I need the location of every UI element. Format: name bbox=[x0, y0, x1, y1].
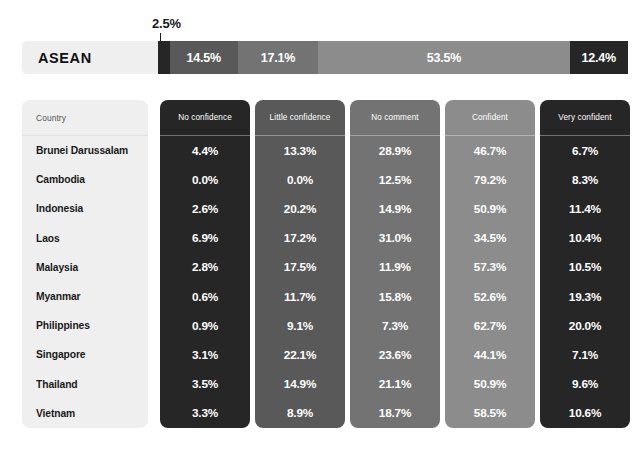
country-percentage-table: CountryBrunei DarussalamCambodiaIndonesi… bbox=[0, 100, 644, 430]
column-header-no-confidence[interactable]: No confidence bbox=[160, 100, 250, 136]
column-header-little-confidence[interactable]: Little confidence bbox=[255, 100, 345, 136]
table-cell-confident: 52.6% bbox=[445, 282, 535, 311]
table-row-country-name: Laos bbox=[22, 224, 148, 253]
table-cell-very-confident: 10.5% bbox=[540, 253, 630, 282]
column-header-no-comment[interactable]: No comment bbox=[350, 100, 440, 136]
table-row-country-name: Philippines bbox=[22, 311, 148, 340]
table-cell-no-comment: 7.3% bbox=[350, 311, 440, 340]
table-cell-little-confidence: 14.9% bbox=[255, 370, 345, 399]
table-column-no-comment: No comment28.9%12.5%14.9%31.0%11.9%15.8%… bbox=[350, 100, 440, 428]
table-column-little-confidence: Little confidence13.3%0.0%20.2%17.2%17.5… bbox=[255, 100, 345, 428]
table-cell-no-confidence: 0.6% bbox=[160, 282, 250, 311]
table-cell-no-comment: 23.6% bbox=[350, 340, 440, 369]
table-row-country-name: Brunei Darussalam bbox=[22, 136, 148, 165]
table-cell-very-confident: 19.3% bbox=[540, 282, 630, 311]
table-row-country-name: Cambodia bbox=[22, 165, 148, 194]
column-header-label: No confidence bbox=[160, 113, 250, 122]
column-header-label: Little confidence bbox=[255, 113, 345, 122]
table-cell-little-confidence: 17.2% bbox=[255, 224, 345, 253]
table-cell-confident: 58.5% bbox=[445, 399, 535, 428]
table-cell-no-comment: 15.8% bbox=[350, 282, 440, 311]
column-header-label: Confident bbox=[445, 113, 535, 122]
table-cell-little-confidence: 20.2% bbox=[255, 194, 345, 223]
table-cell-no-confidence: 2.6% bbox=[160, 194, 250, 223]
table-cell-no-comment: 11.9% bbox=[350, 253, 440, 282]
table-cell-confident: 50.9% bbox=[445, 370, 535, 399]
table-column-country: CountryBrunei DarussalamCambodiaIndonesi… bbox=[22, 100, 148, 428]
table-cell-no-comment: 14.9% bbox=[350, 194, 440, 223]
table-row-country-name: Singapore bbox=[22, 340, 148, 369]
asean-region-label: ASEAN bbox=[38, 50, 92, 66]
table-column-confident: Confident46.7%79.2%50.9%34.5%57.3%52.6%6… bbox=[445, 100, 535, 428]
table-row-country-name: Vietnam bbox=[22, 399, 148, 428]
asean-bar-segment-very-confident: 12.4% bbox=[570, 41, 628, 74]
asean-bar-segment-no-confidence bbox=[158, 41, 170, 74]
table-cell-no-confidence: 2.8% bbox=[160, 253, 250, 282]
table-column-very-confident: Very confident6.7%8.3%11.4%10.4%10.5%19.… bbox=[540, 100, 630, 428]
table-cell-little-confidence: 22.1% bbox=[255, 340, 345, 369]
table-row-country-name: Indonesia bbox=[22, 194, 148, 223]
table-cell-little-confidence: 8.9% bbox=[255, 399, 345, 428]
table-cell-very-confident: 6.7% bbox=[540, 136, 630, 165]
asean-stacked-bar: 14.5%17.1%53.5%12.4% bbox=[158, 41, 628, 74]
infographic-page: 2.5% ASEAN 14.5%17.1%53.5%12.4% CountryB… bbox=[0, 0, 644, 460]
table-cell-no-confidence: 0.0% bbox=[160, 165, 250, 194]
table-cell-no-comment: 31.0% bbox=[350, 224, 440, 253]
asean-summary-section: 2.5% ASEAN 14.5%17.1%53.5%12.4% bbox=[0, 0, 644, 95]
asean-bar-segment-confident: 53.5% bbox=[318, 41, 569, 74]
table-cell-no-comment: 28.9% bbox=[350, 136, 440, 165]
table-cell-confident: 46.7% bbox=[445, 136, 535, 165]
column-header-country[interactable]: Country bbox=[22, 100, 148, 136]
asean-bar-segment-no-comment: 17.1% bbox=[238, 41, 318, 74]
table-cell-no-comment: 18.7% bbox=[350, 399, 440, 428]
table-cell-very-confident: 8.3% bbox=[540, 165, 630, 194]
table-cell-very-confident: 11.4% bbox=[540, 194, 630, 223]
table-column-no-confidence: No confidence4.4%0.0%2.6%6.9%2.8%0.6%0.9… bbox=[160, 100, 250, 428]
table-row-country-name: Thailand bbox=[22, 370, 148, 399]
column-header-label: No comment bbox=[350, 113, 440, 122]
table-cell-no-confidence: 3.3% bbox=[160, 399, 250, 428]
table-cell-very-confident: 10.6% bbox=[540, 399, 630, 428]
table-cell-little-confidence: 17.5% bbox=[255, 253, 345, 282]
asean-callout-label: 2.5% bbox=[152, 16, 181, 31]
table-cell-confident: 50.9% bbox=[445, 194, 535, 223]
asean-bar-segment-little-confidence: 14.5% bbox=[170, 41, 238, 74]
table-cell-no-confidence: 0.9% bbox=[160, 311, 250, 340]
column-header-label: Country bbox=[36, 113, 148, 123]
table-row-country-name: Malaysia bbox=[22, 253, 148, 282]
table-cell-no-confidence: 4.4% bbox=[160, 136, 250, 165]
table-cell-very-confident: 20.0% bbox=[540, 311, 630, 340]
column-header-very-confident[interactable]: Very confident bbox=[540, 100, 630, 136]
table-row-country-name: Myanmar bbox=[22, 282, 148, 311]
table-cell-little-confidence: 0.0% bbox=[255, 165, 345, 194]
table-cell-very-confident: 10.4% bbox=[540, 224, 630, 253]
table-cell-confident: 44.1% bbox=[445, 340, 535, 369]
table-cell-little-confidence: 9.1% bbox=[255, 311, 345, 340]
column-header-confident[interactable]: Confident bbox=[445, 100, 535, 136]
table-cell-very-confident: 9.6% bbox=[540, 370, 630, 399]
table-cell-confident: 57.3% bbox=[445, 253, 535, 282]
table-cell-confident: 34.5% bbox=[445, 224, 535, 253]
table-cell-confident: 79.2% bbox=[445, 165, 535, 194]
table-cell-confident: 62.7% bbox=[445, 311, 535, 340]
table-cell-little-confidence: 13.3% bbox=[255, 136, 345, 165]
table-cell-no-confidence: 6.9% bbox=[160, 224, 250, 253]
table-cell-no-comment: 12.5% bbox=[350, 165, 440, 194]
table-cell-no-confidence: 3.5% bbox=[160, 370, 250, 399]
table-cell-very-confident: 7.1% bbox=[540, 340, 630, 369]
column-header-label: Very confident bbox=[540, 113, 630, 122]
table-cell-no-comment: 21.1% bbox=[350, 370, 440, 399]
table-cell-little-confidence: 11.7% bbox=[255, 282, 345, 311]
table-cell-no-confidence: 3.1% bbox=[160, 340, 250, 369]
